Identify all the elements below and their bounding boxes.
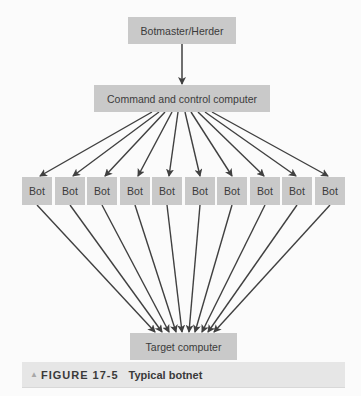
- bot-label: Bot: [224, 185, 240, 197]
- bot-node: Bot: [22, 177, 52, 205]
- bot-node: Bot: [282, 177, 312, 205]
- bot-node: Bot: [87, 177, 117, 205]
- arrows-bots-to-target: [37, 205, 330, 332]
- bot-label: Bot: [62, 185, 78, 197]
- botmaster-label: Botmaster/Herder: [141, 25, 224, 37]
- bot-label: Bot: [257, 185, 273, 197]
- target-label: Target computer: [146, 341, 222, 353]
- bot-node: Bot: [152, 177, 182, 205]
- bot-node: Bot: [185, 177, 215, 205]
- bot-label: Bot: [192, 185, 208, 197]
- bot-node: Bot: [217, 177, 247, 205]
- botmaster-node: Botmaster/Herder: [128, 17, 236, 44]
- bot-label: Bot: [289, 185, 305, 197]
- bot-label: Bot: [159, 185, 175, 197]
- bot-label: Bot: [322, 185, 338, 197]
- cnc-label: Command and control computer: [107, 93, 257, 105]
- arrows-cnc-to-bots: [40, 112, 328, 176]
- figure-number: FIGURE 17-5: [41, 369, 119, 381]
- bot-node: Bot: [55, 177, 85, 205]
- command-and-control-node: Command and control computer: [94, 85, 270, 112]
- bot-node: Bot: [315, 177, 345, 205]
- figure-title: Typical botnet: [129, 369, 203, 381]
- figure-caption: ▲ FIGURE 17-5 Typical botnet: [22, 362, 345, 388]
- bot-label: Bot: [29, 185, 45, 197]
- bot-label: Bot: [94, 185, 110, 197]
- target-computer-node: Target computer: [130, 333, 237, 360]
- triangle-up-icon: ▲: [30, 370, 38, 379]
- bot-label: Bot: [127, 185, 143, 197]
- bot-node: Bot: [120, 177, 150, 205]
- bot-node: Bot: [250, 177, 280, 205]
